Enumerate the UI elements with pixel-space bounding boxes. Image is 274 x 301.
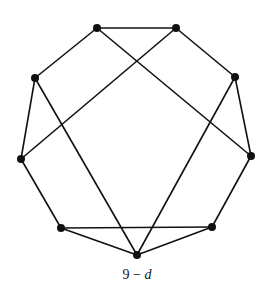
graph-vertices xyxy=(17,24,255,259)
vertex-mid-left xyxy=(17,155,25,163)
edge-upper-right-bottom xyxy=(137,77,235,255)
caption-dash: − xyxy=(133,267,141,282)
edge-lower-right-bottom xyxy=(137,227,212,255)
caption-variable: d xyxy=(144,267,151,282)
edge-top-left-mid-right xyxy=(97,28,251,156)
vertex-top-right xyxy=(172,24,180,32)
graph-edges xyxy=(21,28,251,255)
edge-upper-left-mid-left xyxy=(21,78,35,159)
vertex-lower-right xyxy=(208,223,216,231)
edge-lower-left-lower-right xyxy=(61,227,212,228)
edge-top-right-upper-right xyxy=(176,28,235,77)
vertex-upper-left xyxy=(31,74,39,82)
vertex-mid-right xyxy=(247,152,255,160)
edge-top-left-upper-left xyxy=(35,28,97,78)
edge-mid-right-lower-right xyxy=(212,156,251,227)
vertex-top-left xyxy=(93,24,101,32)
figure-caption: 9 − d xyxy=(0,267,274,283)
vertex-lower-left xyxy=(57,224,65,232)
caption-number: 9 xyxy=(123,267,130,282)
edge-mid-left-lower-left xyxy=(21,159,61,228)
edge-lower-left-bottom xyxy=(61,228,137,255)
vertex-upper-right xyxy=(231,73,239,81)
graph-diagram xyxy=(0,0,274,301)
vertex-bottom xyxy=(133,251,141,259)
